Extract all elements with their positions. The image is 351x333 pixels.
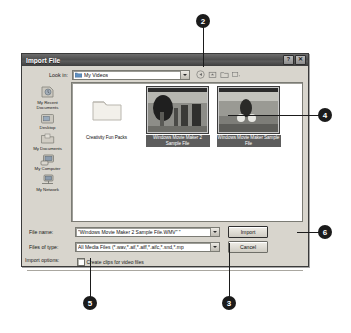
file-type-value: All Media Files (*.wav,*.aif,*.aiff,*.ai… (78, 244, 184, 250)
file-type-label: Files of type: (27, 244, 75, 250)
look-in-label: Look in: (22, 72, 72, 78)
sidebar-label-desktop: Desktop (40, 125, 56, 130)
list-item-video-2[interactable]: Windows Movie Maker Sample File (216, 87, 281, 147)
dialog-titlebar[interactable]: Import File ? ✕ (22, 54, 308, 66)
callout-leader-4 (228, 115, 320, 116)
sidebar-item-my-documents[interactable]: My Documents (28, 132, 68, 152)
file-list[interactable]: Creativity Fun Packs (71, 82, 303, 222)
file-type-row: Files of type: All Media Files (*.wav,*.… (27, 241, 303, 253)
cancel-button[interactable]: Cancel (228, 241, 268, 253)
import-button[interactable]: Import (228, 226, 268, 238)
titlebar-buttons: ? ✕ (283, 55, 306, 65)
dialog-body: My RecentDocuments Desktop My Documen (22, 82, 308, 222)
create-clips-row: Create clips for video files (27, 255, 303, 266)
thumbnail-image-1 (148, 88, 207, 132)
list-item-label: Creativity Fun Packs (75, 135, 139, 141)
list-item-folder[interactable]: Creativity Fun Packs (74, 87, 139, 140)
callout-2: 2 (196, 14, 210, 28)
list-item-video-1[interactable]: Windows Movie Maker 2 Sample File (145, 87, 210, 147)
places-bar: My RecentDocuments Desktop My Documen (27, 82, 68, 222)
file-name-label: File name: (27, 229, 75, 235)
video-thumbnail-1 (147, 87, 208, 133)
callout-5: 5 (83, 296, 97, 310)
folder-thumbnail (76, 87, 137, 133)
import-options-label: Import options: (25, 257, 59, 263)
form-divider (27, 270, 303, 271)
dialog-toolbar (196, 70, 241, 79)
thumbnail-image-2 (219, 88, 278, 132)
sidebar-item-desktop[interactable]: Desktop (28, 112, 68, 132)
my-network-icon (40, 174, 56, 186)
my-documents-icon (40, 133, 55, 145)
file-name-value: "Windows Movie Maker 2 Sample File.WMV" … (78, 229, 181, 235)
up-one-level-icon[interactable] (208, 70, 217, 79)
callout-leader-2 (203, 27, 204, 67)
dialog-buttons-2: Cancel (228, 241, 268, 253)
sidebar-label-my-recent-documents: My RecentDocuments (37, 100, 59, 110)
file-type-dropdown-arrow[interactable] (210, 243, 219, 251)
callout-4: 4 (318, 108, 332, 122)
look-in-dropdown-arrow[interactable] (180, 71, 189, 79)
create-clips-checkbox[interactable] (77, 258, 85, 266)
file-name-row: File name: "Windows Movie Maker 2 Sample… (27, 226, 303, 238)
callout-leader-5-vertical (90, 258, 91, 298)
sidebar-label-my-network: My Network (36, 187, 59, 192)
dialog-title: Import File (26, 57, 283, 64)
look-in-combobox[interactable]: My Videos (72, 70, 190, 80)
callout-6: 6 (318, 225, 332, 239)
list-item-label: Windows Movie Maker Sample File (217, 135, 281, 147)
callout-leader-6 (297, 232, 320, 233)
help-icon[interactable]: ? (283, 55, 294, 65)
import-file-dialog: Import File ? ✕ Look in: My Videos (21, 53, 309, 267)
recent-documents-icon (39, 85, 56, 99)
my-computer-icon (40, 154, 56, 166)
sidebar-item-my-network[interactable]: My Network (28, 173, 68, 193)
sidebar-label-my-documents: My Documents (33, 146, 62, 151)
files-of-type-dropdown[interactable]: All Media Files (*.wav,*.aif,*.aiff,*.ai… (75, 242, 220, 252)
create-clips-label: Create clips for video files (87, 259, 144, 265)
close-icon[interactable]: ✕ (295, 55, 306, 65)
callout-leader-3 (229, 243, 230, 298)
file-name-input[interactable]: "Windows Movie Maker 2 Sample File.WMV" … (75, 227, 220, 237)
sidebar-label-my-computer: My Computer (35, 166, 61, 171)
folder-icon (75, 72, 82, 78)
views-icon[interactable] (232, 70, 241, 79)
file-name-dropdown-arrow[interactable] (210, 228, 219, 236)
folder-large-icon (90, 96, 124, 124)
back-icon[interactable] (196, 70, 205, 79)
sidebar-item-my-recent-documents[interactable]: My RecentDocuments (28, 84, 68, 111)
desktop-icon (40, 113, 55, 125)
dialog-buttons: Import (228, 226, 268, 238)
list-item-label: Windows Movie Maker 2 Sample File (146, 135, 210, 147)
sidebar-item-my-computer[interactable]: My Computer (28, 153, 68, 173)
screenshot-root: Import File ? ✕ Look in: My Videos (0, 0, 351, 333)
callout-3: 3 (222, 296, 236, 310)
new-folder-icon[interactable] (220, 70, 229, 79)
video-thumbnail-2 (218, 87, 279, 133)
look-in-value: My Videos (84, 72, 108, 78)
look-in-row: Look in: My Videos (22, 67, 308, 82)
dialog-form: File name: "Windows Movie Maker 2 Sample… (22, 222, 308, 271)
